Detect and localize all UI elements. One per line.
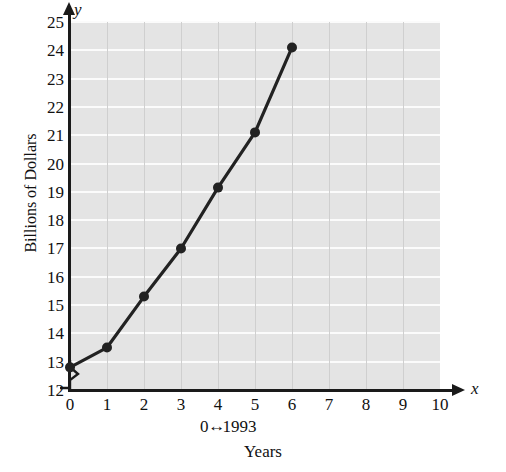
x-axis-tick-label: 2 xyxy=(129,396,159,413)
x-axis-tick-label: 4 xyxy=(203,396,233,413)
x-axis-line xyxy=(68,389,456,392)
y-axis-line xyxy=(68,14,71,390)
x-axis-tick-label: 0 xyxy=(55,396,85,413)
vertical-gridline xyxy=(255,22,256,390)
x-axis-tick-label: 3 xyxy=(166,396,196,413)
y-axis-title: Billions of Dollars xyxy=(22,103,40,283)
x-axis-arrowhead-icon xyxy=(452,384,465,396)
origin-note-year: 1993 xyxy=(223,417,257,436)
x-axis-tick-label: 7 xyxy=(314,396,344,413)
vertical-gridline xyxy=(144,22,145,390)
x-axis-tick-label: 10 xyxy=(425,396,455,413)
vertical-gridline xyxy=(107,22,108,390)
y-axis-tick-label: 13 xyxy=(34,354,64,371)
vertical-gridline xyxy=(292,22,293,390)
y-axis-tick-label: 24 xyxy=(34,42,64,59)
vertical-gridline xyxy=(218,22,219,390)
x-axis-tick-label: 6 xyxy=(277,396,307,413)
vertical-gridline xyxy=(181,22,182,390)
vertical-gridline xyxy=(403,22,404,390)
x-axis-tick-label: 9 xyxy=(388,396,418,413)
origin-year-annotation: 0↔1993 xyxy=(200,417,360,437)
x-axis-tick-label: 1 xyxy=(92,396,122,413)
y-axis-tick-label: 23 xyxy=(34,71,64,88)
x-axis-tick-label: 8 xyxy=(351,396,381,413)
x-axis-title: Years xyxy=(203,442,323,462)
y-axis-tick-label: 15 xyxy=(34,297,64,314)
vertical-gridline xyxy=(329,22,330,390)
x-axis-symbol: x xyxy=(471,379,479,399)
y-axis-tick-label: 14 xyxy=(34,325,64,342)
double-arrow-icon: ↔ xyxy=(207,418,223,435)
vertical-gridline xyxy=(366,22,367,390)
y-axis-tick-label: 25 xyxy=(34,14,64,31)
y-axis-symbol: y xyxy=(74,0,82,20)
plot-area xyxy=(70,22,440,390)
x-axis-tick-label: 5 xyxy=(240,396,270,413)
chart-figure: y x 1213141516171819202122232425 0123456… xyxy=(0,0,506,472)
